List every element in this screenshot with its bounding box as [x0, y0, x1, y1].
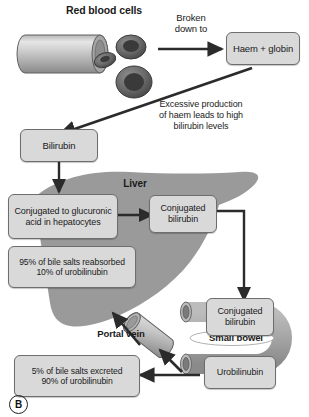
arrow-conjbili-to-bowel [216, 211, 244, 300]
box-haem-globin[interactable]: Haem + globin [226, 32, 300, 65]
box-bile-salts-excreted-label: 5% of bile salts excreted 90% of urobili… [29, 366, 126, 386]
blood-vessel-cylinder [17, 35, 108, 73]
box-haem-globin-label: Haem + globin [230, 43, 296, 54]
annotation-excessive-production: Excessive production of haem leads to hi… [131, 99, 271, 131]
box-conjugated-bilirubin-liver-label: Conjugated bilirubin [157, 203, 208, 224]
liver-label: Liver [104, 178, 166, 190]
figure-panel-b: Red blood cells Broken down to Excessive… [0, 0, 309, 417]
box-urobilinubin[interactable]: Urobilinubin [204, 356, 276, 389]
portal-vein-label: Portal vein [88, 328, 154, 339]
box-bilirubin[interactable]: Bilirubin [20, 129, 98, 162]
box-conjugated-bilirubin-liver[interactable]: Conjugated bilirubin [149, 195, 217, 233]
arrow-bowel-to-portalvein [160, 350, 182, 372]
panel-badge-label: B [15, 399, 22, 410]
panel-badge-b: B [9, 395, 28, 414]
box-urobilinubin-label: Urobilinubin [214, 367, 266, 378]
annotation-broken-down-to: Broken down to [158, 12, 224, 35]
box-bilirubin-label: Bilirubin [40, 140, 79, 151]
box-bile-salts-excreted[interactable]: 5% of bile salts excreted 90% of urobili… [14, 355, 140, 397]
box-conjugated-bilirubin-bowel-label: Conjugated bilirubin [214, 306, 265, 327]
box-conjugation-hepatocytes[interactable]: Conjugated to glucuronic acid in hepatoc… [8, 194, 118, 239]
box-bile-salts-reabsorbed-label: 95% of bile salts reabsorbed 10% of urob… [16, 257, 128, 277]
box-bile-salts-reabsorbed[interactable]: 95% of bile salts reabsorbed 10% of urob… [8, 246, 136, 288]
box-conjugation-hepatocytes-label: Conjugated to glucuronic acid in hepatoc… [11, 206, 114, 227]
page-title: Red blood cells [44, 4, 164, 17]
box-conjugated-bilirubin-bowel[interactable]: Conjugated bilirubin [206, 298, 274, 336]
